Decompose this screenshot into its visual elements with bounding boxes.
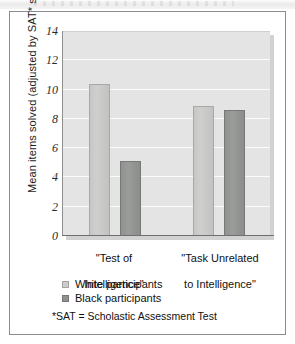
x-group-label-2: "Task Unrelated to Intelligence" (166, 239, 274, 291)
y-tick-2: 2 (18, 201, 58, 213)
legend: White participants Black participants (62, 278, 162, 306)
legend-swatch-black-icon (62, 295, 69, 302)
y-tick-4: 4 (18, 171, 58, 183)
bar-group2-dark (224, 110, 245, 236)
x-axis-baseline (62, 235, 274, 236)
plot-area-wrapper (62, 31, 270, 236)
bar-group1-dark (120, 161, 141, 236)
y-tick-12: 12 (18, 54, 58, 66)
gridline-12 (63, 59, 270, 60)
legend-item-black: Black participants (62, 292, 162, 305)
scan-artifact-speckle (34, 1, 234, 6)
y-tick-0: 0 (18, 230, 58, 242)
legend-label-black: Black participants (75, 292, 161, 305)
y-axis-tick-labels: 14 12 10 8 6 4 2 0 (14, 31, 58, 236)
scan-artifact-band (0, 0, 295, 9)
x-axis-group-labels: "Test of Intelligence" "Task Unrelated t… (62, 239, 274, 273)
bar-group1-light (89, 84, 110, 236)
bar-group2-light (193, 106, 214, 236)
x-group-label-2-line2: to Intelligence" (184, 278, 256, 290)
x-group-label-2-line1: "Task Unrelated (181, 252, 258, 264)
legend-item-white: White participants (62, 278, 162, 291)
y-tick-10: 10 (18, 84, 58, 96)
y-axis-line (62, 31, 63, 236)
legend-swatch-white-icon (62, 281, 69, 288)
y-tick-8: 8 (18, 113, 58, 125)
legend-label-white: White participants (75, 278, 162, 291)
figure-container: Mean items solved (adjusted by SAT* scor… (0, 0, 295, 344)
footnote: *SAT = Scholastic Assessment Test (52, 310, 217, 322)
x-group-label-1-line1: "Test of (96, 252, 132, 264)
y-tick-14: 14 (18, 25, 58, 37)
plot-area (62, 31, 270, 236)
y-tick-6: 6 (18, 142, 58, 154)
